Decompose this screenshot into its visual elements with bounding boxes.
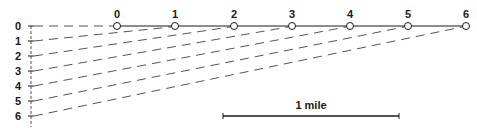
left-axis-label: 5 [15,95,21,107]
left-axis: 0123456 [15,20,34,127]
scale-bar-label: 1 mile [295,99,326,111]
left-axis-label: 2 [15,50,21,62]
left-axis-label: 1 [15,35,21,47]
left-axis-label: 4 [15,80,22,92]
division-point-circle [289,23,296,30]
top-divided-line: 0123456 [114,8,470,30]
left-axis-label: 0 [15,20,21,32]
dashed-construction-line [34,27,171,41]
triangle-division-diagram: 0123456 0123456 1 mile [0,0,477,131]
division-point-circle [347,23,354,30]
division-point-label: 1 [172,8,178,20]
division-point-circle [231,23,238,30]
division-point-circle [405,23,412,30]
division-point-label: 6 [463,8,469,20]
dashed-construction-lines [34,26,462,116]
division-point-circle [172,23,179,30]
division-point-label: 0 [114,8,120,20]
division-point-circle [463,23,470,30]
division-point-label: 2 [231,8,237,20]
division-point-label: 5 [405,8,411,20]
division-point-label: 3 [289,8,295,20]
dashed-construction-line [34,27,288,71]
dashed-construction-line [34,27,462,116]
division-point-circle [114,23,121,30]
division-point-label: 4 [347,8,354,20]
scale-bar: 1 mile [223,99,399,119]
dashed-construction-line [34,27,404,101]
left-axis-label: 6 [15,110,21,122]
left-axis-label: 3 [15,65,21,77]
